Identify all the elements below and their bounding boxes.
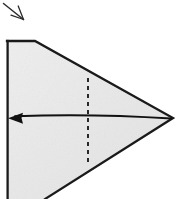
origami-diagram: Folded paper Fold crease (dashed) Fold t… [0, 0, 177, 199]
diagram-canvas [0, 0, 177, 199]
